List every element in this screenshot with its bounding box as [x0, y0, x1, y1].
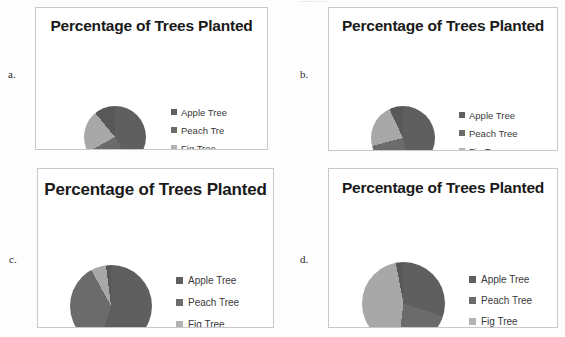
- pie-chart-a: [84, 106, 146, 150]
- slide-c[interactable]: Percentage of Trees Planted Apple Tree P…: [37, 168, 274, 328]
- legend-item[interactable]: Fig Tree: [176, 313, 239, 328]
- legend-swatch-peach-icon: [171, 127, 177, 133]
- legend-a: Apple Tree Peach Tre Fig Tree Pear Tree: [171, 103, 227, 150]
- legend-swatch-fig-icon: [176, 321, 183, 328]
- legend-swatch-apple-icon: [459, 112, 465, 118]
- legend-label: Apple Tree: [469, 110, 515, 121]
- slide-title-b: Percentage of Trees Planted: [329, 17, 557, 34]
- legend-label: Peach Tre: [181, 125, 224, 136]
- legend-label: Peach Tree: [188, 297, 239, 308]
- legend-item[interactable]: Peach Tree: [469, 290, 532, 311]
- legend-item[interactable]: Fig Tree: [469, 311, 532, 328]
- legend-c: Apple Tree Peach Tree Fig Tree Pear Tree: [176, 269, 239, 328]
- legend-swatch-apple-icon: [176, 277, 183, 284]
- legend-label: Peach Tree: [469, 128, 518, 139]
- legend-item[interactable]: Peach Tree: [176, 291, 239, 313]
- slide-d[interactable]: Percentage of Trees Planted Apple Tree P…: [328, 168, 558, 328]
- legend-label: Fig Tree: [469, 146, 504, 151]
- legend-label: Fig Tree: [481, 316, 518, 327]
- legend-swatch-apple-icon: [469, 276, 476, 283]
- legend-item[interactable]: Apple Tree: [176, 269, 239, 291]
- legend-label: Apple Tree: [481, 274, 529, 285]
- legend-swatch-peach-icon: [459, 130, 465, 136]
- legend-swatch-fig-icon: [171, 145, 177, 150]
- slide-title-c: Percentage of Trees Planted: [38, 180, 273, 199]
- legend-swatch-fig-icon: [459, 148, 465, 151]
- legend-item[interactable]: Fig Tree: [171, 139, 227, 150]
- legend-item[interactable]: Fig Tree: [459, 142, 518, 151]
- legend-label: Fig Tree: [188, 319, 225, 328]
- legend-label: Peach Tree: [481, 295, 532, 306]
- option-letter-d: d.: [300, 253, 308, 265]
- legend-swatch-peach-icon: [176, 299, 183, 306]
- legend-swatch-apple-icon: [171, 109, 177, 115]
- legend-item[interactable]: Apple Tree: [459, 106, 518, 124]
- legend-item[interactable]: Apple Tree: [171, 103, 227, 121]
- option-letter-a: a.: [8, 68, 16, 80]
- legend-d: Apple Tree Peach Tree Fig Tree Pear Tree: [469, 269, 532, 328]
- pie-chart-d: [362, 262, 445, 328]
- legend-item[interactable]: Peach Tree: [459, 124, 518, 142]
- option-letter-c: c.: [9, 253, 17, 265]
- top-cut-text: ...........: [300, 0, 500, 4]
- pie-chart-c: [70, 265, 152, 328]
- legend-swatch-peach-icon: [469, 297, 476, 304]
- slide-title-a: Percentage of Trees Planted: [36, 17, 267, 34]
- option-letter-b: b.: [300, 68, 308, 80]
- slide-a[interactable]: Percentage of Trees Planted Apple Tree P…: [35, 7, 268, 150]
- slide-title-d: Percentage of Trees Planted: [329, 179, 557, 196]
- legend-label: Fig Tree: [181, 143, 216, 150]
- legend-item[interactable]: Peach Tre: [171, 121, 227, 139]
- pie-chart-b: [371, 106, 435, 151]
- legend-b: Apple Tree Peach Tree Fig Tree Pear Tree: [459, 106, 518, 151]
- legend-label: Apple Tree: [181, 107, 227, 118]
- legend-label: Apple Tree: [188, 275, 236, 286]
- legend-item[interactable]: Apple Tree: [469, 269, 532, 290]
- slide-b[interactable]: Percentage of Trees Planted Apple Tree P…: [328, 7, 558, 151]
- legend-swatch-fig-icon: [469, 318, 476, 325]
